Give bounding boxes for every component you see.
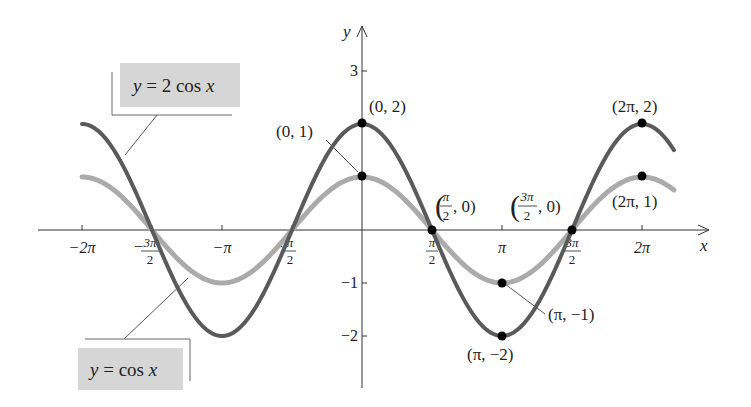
label-2pi-1: (2π, 1) [612,192,657,211]
label-2pi-2: (2π, 2) [612,97,657,116]
x-tick-label-den: 2 [429,252,436,267]
legend-2cos: y = 2 cos x [112,63,240,115]
x-tick-label: −π [213,239,233,256]
point-2pi-2 [638,119,647,128]
label-pi-m2: (π, −2) [467,345,514,364]
label-pi-m1: (π, −1) [548,305,595,324]
leader-0-1 [326,140,358,172]
x-tick-label-den: 2 [287,252,294,267]
point-pi2-0 [428,226,437,235]
point-2pi-1 [638,172,647,181]
svg-text:y = cos x: y = cos x [88,359,158,380]
svg-text:y = 2 cos x: y = 2 cos x [131,75,215,96]
point-pi-m1 [498,279,507,288]
y-axis-label: y [341,22,351,41]
point-3pi2-0 [568,226,577,235]
frac-num: π [443,189,450,204]
y-tick-label: 3 [350,62,358,79]
y-tick-label: −2 [341,327,358,344]
frac-den: 2 [443,208,450,223]
label-3pi2-0: ( 3π 2 , 0) [510,189,561,223]
x-tick-label-minus: − [134,238,143,255]
y-tick-label: −1 [341,274,358,291]
x-tick-label: π [498,239,507,256]
point-0-1 [358,172,367,181]
label-rest: , 0) [538,197,561,216]
label-0-2: (0, 2) [369,97,406,116]
leader-legend-2cos [125,115,157,155]
y-ticks: 3−1−2 [341,62,367,344]
frac-num: 3π [519,189,534,204]
label-pi2-0: ( π 2 , 0) [435,189,476,223]
x-tick-label-den: 2 [147,252,154,267]
point-pi-m2 [498,332,507,341]
x-tick-label-den: 2 [569,252,576,267]
x-tick-label: −2π [69,239,97,256]
cosine-chart: −2π−3π2−π−π2π2π3π22π 3−1−2 y x (0, 2) (0… [0,0,751,407]
leader-legend-cos [124,278,188,339]
point-0-2 [358,119,367,128]
label-0-1: (0, 1) [276,122,313,141]
legend-cos: y = cos x [78,339,190,390]
x-axis-label: x [699,236,708,255]
frac-den: 2 [524,208,531,223]
label-rest: , 0) [453,197,476,216]
x-tick-label: 2π [634,239,651,256]
